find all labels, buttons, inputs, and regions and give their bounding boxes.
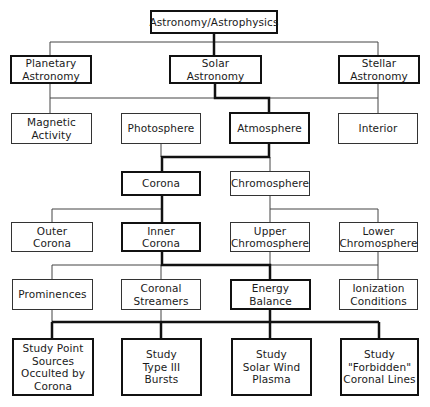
node-ionization-conditions: Ionization Conditions [339,279,418,310]
node-interior: Interior [338,113,418,144]
node-chromosphere: Chromosphere [230,171,310,196]
node-atmosphere: Atmosphere [229,112,310,144]
node-solar-astronomy: Solar Astronomy [169,55,262,84]
node-inner-corona: Inner Corona [121,222,201,252]
node-corona: Corona [121,171,201,196]
node-coronal-streamers: Coronal Streamers [121,279,201,310]
node-prominences: Prominences [12,279,93,310]
node-study-forbidden-coronal-lines: Study "Forbidden" Coronal Lines [340,338,419,396]
node-stellar-astronomy: Stellar Astronomy [338,55,420,84]
node-study-solar-wind-plasma: Study Solar Wind Plasma [231,338,312,396]
node-energy-balance: Energy Balance [230,279,311,310]
node-study-point-sources: Study Point Sources Occulted by Corona [12,338,94,396]
node-outer-corona: Outer Corona [11,222,93,252]
node-study-type-iii-bursts: Study Type III Bursts [121,338,202,396]
node-planetary-astronomy: Planetary Astronomy [10,55,92,84]
node-magnetic-activity: Magnetic Activity [11,113,92,144]
node-upper-chromosphere: Upper Chromosphere [230,222,310,252]
node-lower-chromosphere: Lower Chromosphere [339,222,418,252]
node-photosphere: Photosphere [121,113,201,144]
node-astronomy-astrophysics: Astronomy/Astrophysics [150,10,278,34]
